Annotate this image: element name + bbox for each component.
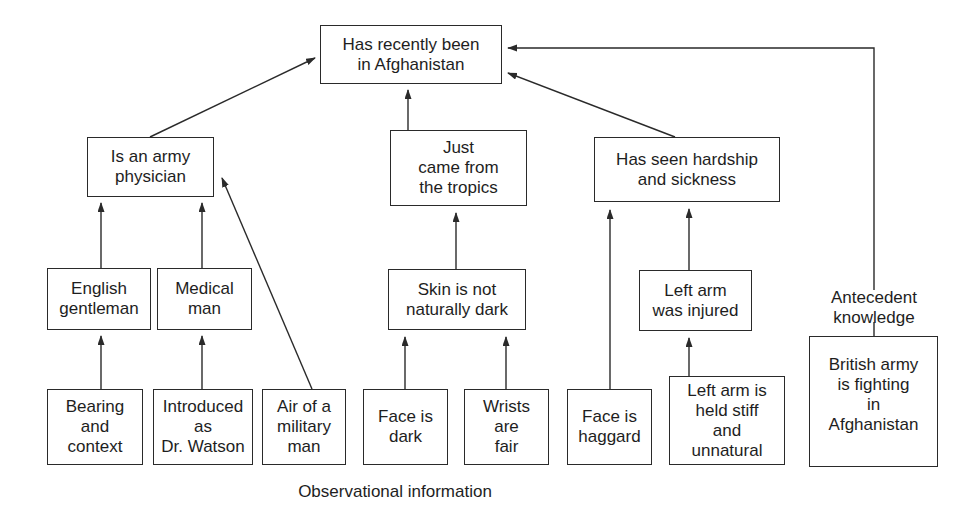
edge-army-physician-to-afghanistan: [150, 58, 315, 137]
node-english-gentleman: English gentleman: [47, 268, 151, 330]
node-label: Skin is not naturally dark: [406, 280, 508, 320]
node-label: Wrists are fair: [483, 397, 530, 457]
edge-hardship-to-afghanistan: [508, 73, 675, 137]
node-label: Introduced as Dr. Watson: [161, 397, 244, 457]
node-label: Face is haggard: [578, 407, 640, 447]
node-label: Air of a military man: [277, 397, 331, 457]
node-has-recently-been-in-afghanistan: Has recently been in Afghanistan: [320, 25, 502, 84]
node-label: Has seen hardship and sickness: [616, 150, 758, 190]
node-skin-is-not-naturally-dark: Skin is not naturally dark: [388, 269, 526, 330]
node-just-came-from-the-tropics: Just came from the tropics: [390, 130, 527, 206]
node-wrists-are-fair: Wrists are fair: [464, 389, 549, 465]
node-is-an-army-physician: Is an army physician: [87, 137, 214, 197]
node-left-arm-was-injured: Left arm was injured: [639, 270, 752, 331]
node-label: Face is dark: [378, 407, 433, 447]
node-label: Left arm was injured: [653, 281, 739, 321]
antecedent-knowledge-label: Antecedent knowledge: [810, 288, 938, 328]
node-label: Bearing and context: [66, 397, 125, 457]
node-left-arm-held-stiff: Left arm is held stiff and unnatural: [669, 376, 785, 465]
observational-information-label: Observational information: [250, 482, 540, 502]
node-label: Is an army physician: [111, 147, 190, 187]
node-label: Left arm is held stiff and unnatural: [687, 381, 766, 461]
node-face-is-dark: Face is dark: [363, 389, 448, 465]
node-british-army-fighting-in-afghanistan: British army is fighting in Afghanistan: [809, 336, 938, 467]
node-bearing-and-context: Bearing and context: [47, 389, 143, 465]
node-face-is-haggard: Face is haggard: [567, 389, 652, 465]
node-medical-man: Medical man: [157, 268, 252, 330]
node-air-of-a-military-man: Air of a military man: [262, 389, 346, 465]
node-label: English gentleman: [59, 279, 138, 319]
node-label: British army is fighting in Afghanistan: [829, 355, 919, 435]
node-label: Just came from the tropics: [418, 138, 498, 198]
node-label: Has recently been in Afghanistan: [342, 35, 479, 75]
node-label: Medical man: [175, 279, 234, 319]
node-has-seen-hardship-and-sickness: Has seen hardship and sickness: [594, 137, 780, 202]
node-introduced-as-dr-watson: Introduced as Dr. Watson: [153, 389, 253, 465]
